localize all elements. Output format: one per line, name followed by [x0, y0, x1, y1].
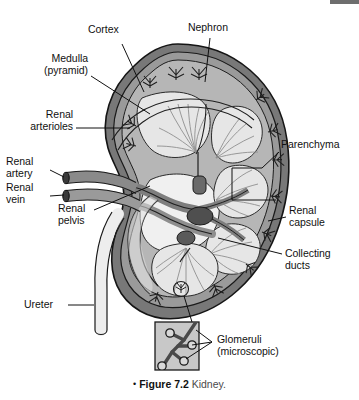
glomeruli-inset [155, 322, 199, 370]
leader-artery [50, 170, 64, 177]
leader-vein [50, 195, 64, 196]
label-vein-line2: vein [6, 194, 25, 206]
label-medulla-line2: (pyramid) [0, 65, 88, 77]
label-medulla-line1: Medulla [0, 53, 88, 65]
label-nephron: Nephron [188, 22, 228, 34]
caption-number: Figure 7.2 [139, 378, 189, 390]
label-pelvis-line2: pelvis [58, 215, 85, 227]
label-pelvis-line1: Renal [58, 203, 85, 215]
kidney-figure: Cortex Nephron Medulla (pyramid) Renal a… [0, 0, 359, 400]
label-ducts-line1: Collecting [285, 248, 331, 260]
caption-text: Kidney. [192, 378, 226, 390]
label-vein-line1: Renal [6, 182, 33, 194]
caption-bullet: • [133, 379, 136, 389]
label-cortex: Cortex [88, 24, 119, 36]
figure-caption: • Figure 7.2 Kidney. [0, 378, 359, 390]
medulla-pyramid-bottom [152, 243, 218, 296]
label-capsule-line1: Renal [289, 205, 316, 217]
label-arterioles-line1: Renal [0, 109, 73, 121]
label-glomeruli-line1: Glomeruli [217, 334, 261, 346]
label-parenchyma: Parenchyma [281, 139, 339, 151]
label-glomeruli-line2: (microscopic) [217, 346, 279, 358]
label-ducts-line2: ducts [285, 260, 310, 272]
label-artery-line1: Renal [6, 156, 33, 168]
kidney-cross-section [60, 44, 289, 335]
label-arterioles-line2: arterioles [0, 121, 73, 133]
label-capsule-line2: capsule [289, 217, 325, 229]
label-artery-line2: artery [6, 168, 33, 180]
label-ureter: Ureter [24, 299, 53, 311]
